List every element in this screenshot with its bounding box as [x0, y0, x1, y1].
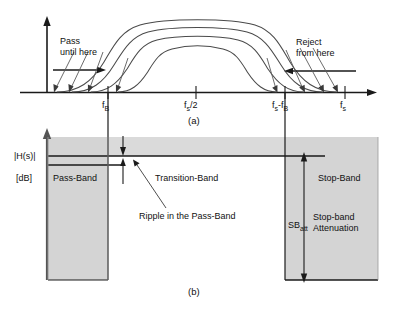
ripple-span-arrowhead-up	[120, 158, 126, 166]
ripple-leader-line	[135, 162, 166, 208]
panel-b-tag: (b)	[188, 286, 200, 297]
panel-b-y-axis-arrowhead	[43, 128, 51, 139]
figure-root: Pass until here Reject from here fB fs/2…	[0, 0, 395, 314]
ripple-leader-arrowhead	[133, 160, 140, 167]
transition-band-label: Transition-Band	[155, 173, 218, 183]
tick-label-fs-half-tail: /2	[190, 100, 198, 110]
sb-att-symbol-main: SB	[288, 220, 300, 230]
tick-label-fsmfb-sub2: B	[284, 105, 289, 112]
tick-label-fs: fs	[340, 100, 346, 112]
response-curve-1	[57, 20, 337, 92]
paper-texture	[108, 137, 285, 156]
tick-label-fs-minus-fb: fs-fB	[272, 100, 288, 112]
magnitude-axis-label: |H(s)|	[14, 151, 36, 161]
pass-band-fill	[48, 137, 108, 280]
response-curve-4	[118, 46, 277, 92]
reject-direction-arrowhead	[284, 68, 293, 74]
tick-label-fs-sub: s	[343, 105, 347, 112]
reject-annotation-line1: Reject	[296, 37, 322, 47]
stop-band-attenuation-line2: Attenuation	[313, 223, 359, 233]
pass-leader-2-head	[68, 84, 73, 93]
reject-leader-1-head	[332, 85, 338, 93]
response-curve-2	[72, 28, 323, 93]
stop-band-attenuation-line1: Stop-band	[313, 212, 355, 222]
pass-leader-4	[118, 58, 129, 89]
stop-band-fill	[285, 137, 378, 280]
stop-band-attenuation-label: Stop-band Attenuation	[313, 212, 359, 233]
tick-label-fs-half: fs/2	[184, 100, 198, 112]
units-axis-label: [dB]	[16, 173, 32, 183]
pass-direction-arrowhead	[97, 67, 106, 73]
stop-band-label: Stop-Band	[318, 173, 361, 183]
pass-annotation-line1: Pass	[60, 36, 80, 46]
reject-leader-4	[267, 58, 276, 89]
pass-band-label: Pass-Band	[53, 173, 97, 183]
panel-a-y-axis-arrowhead	[43, 16, 50, 26]
reject-annotation-line2: from here	[296, 48, 335, 58]
ripple-label: Ripple in the Pass-Band	[139, 211, 236, 222]
sb-att-symbol: SBatt	[288, 220, 308, 232]
panel-a-x-axis-arrowhead	[367, 89, 377, 96]
response-curve-3	[91, 36, 304, 92]
panel-a-tag: (a)	[188, 115, 200, 126]
sb-att-symbol-sub: att	[300, 225, 308, 232]
reject-annotation: Reject from here	[296, 37, 335, 58]
tick-label-fb-sub: B	[105, 105, 110, 112]
pass-annotation-line2: until here	[60, 47, 97, 57]
pass-annotation: Pass until here	[60, 36, 97, 57]
tick-label-fb: fB	[102, 100, 109, 112]
